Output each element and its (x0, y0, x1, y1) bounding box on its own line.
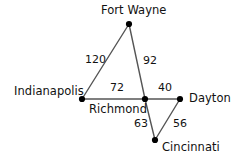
edge-weight-richmond-cincinnati: 63 (134, 118, 148, 129)
graph-node-cincinnati (152, 137, 158, 143)
graph-diagram: 1209272406356Fort WayneIndianapolisRichm… (0, 0, 234, 161)
edge-weight-richmond-dayton: 40 (158, 82, 172, 93)
node-label-dayton: Dayton (189, 93, 231, 105)
graph-node-dayton (177, 96, 183, 102)
graph-node-fort-wayne (126, 21, 132, 27)
node-label-richmond: Richmond (89, 104, 147, 116)
node-label-fort-wayne: Fort Wayne (101, 5, 167, 17)
edge-weight-indianapolis-richmond: 72 (110, 82, 124, 93)
node-label-cincinnati: Cincinnati (162, 142, 220, 154)
edge-weight-cincinnati-dayton: 56 (173, 118, 187, 129)
edge-weight-indianapolis-fort-wayne: 120 (85, 54, 106, 65)
node-label-indianapolis: Indianapolis (14, 86, 84, 98)
edge-weight-fort-wayne-richmond: 92 (143, 55, 157, 66)
